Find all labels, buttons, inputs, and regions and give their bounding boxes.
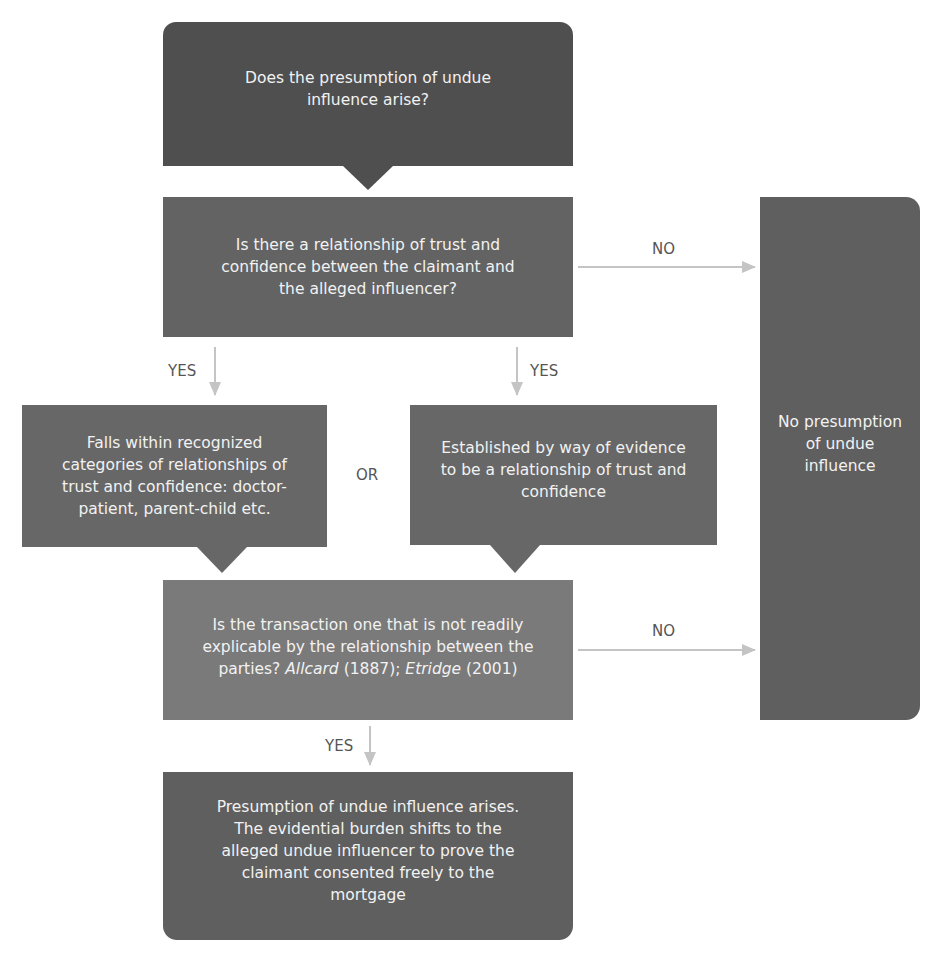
yes-label-right: YES	[530, 362, 558, 380]
yes-label-left: YES	[168, 362, 196, 380]
connector-arrows	[0, 0, 941, 964]
yes-label-bottom: YES	[325, 737, 353, 755]
no-label-2: NO	[652, 622, 675, 640]
no-label-1: NO	[652, 240, 675, 258]
